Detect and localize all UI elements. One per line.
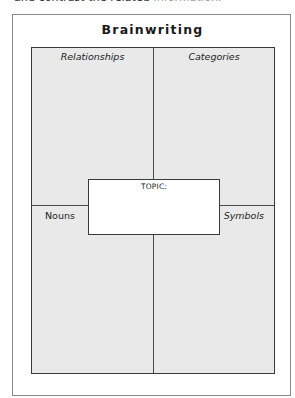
quadrant-symbols-label: Symbols xyxy=(224,210,264,221)
caption-text-faded: information. xyxy=(154,0,222,4)
caption-text-main: and contrast the related xyxy=(14,0,154,4)
quadrant-relationships-label: Relationships xyxy=(32,51,153,62)
brainwriting-grid: Relationships Categories Nouns Symbols T… xyxy=(31,47,275,374)
topic-box[interactable]: TOPIC: xyxy=(88,179,220,235)
quadrant-categories-label: Categories xyxy=(154,51,274,62)
quadrant-nouns-label: Nouns xyxy=(45,210,75,221)
topic-label: TOPIC: xyxy=(89,182,219,191)
worksheet-title: Brainwriting xyxy=(0,22,295,37)
caption-text: and contrast the related information. xyxy=(14,0,222,4)
